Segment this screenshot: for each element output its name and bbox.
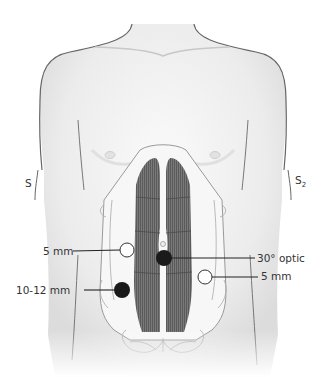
port-optic-filled <box>156 250 172 266</box>
label-5mm-left: 5 mm <box>43 246 73 257</box>
torso-illustration <box>0 0 325 377</box>
label-5mm-right: 5 mm <box>261 271 291 282</box>
right-nipple <box>210 152 220 159</box>
port-5mm-right-open <box>198 270 212 284</box>
port-10-12mm-filled <box>114 282 130 298</box>
right-rectus-muscle <box>166 158 192 332</box>
side-marker-left: S <box>25 178 32 189</box>
left-rectus-muscle <box>134 158 160 332</box>
side-marker-right: S2 <box>295 175 306 189</box>
port-5mm-left-open <box>120 243 134 257</box>
umbilicus <box>161 242 166 247</box>
label-10-12mm: 10-12 mm <box>16 285 70 296</box>
label-30-optic: 30° optic <box>257 253 305 264</box>
left-nipple <box>105 152 115 159</box>
